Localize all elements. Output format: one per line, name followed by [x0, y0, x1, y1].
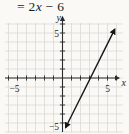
y-axis-label: y [56, 12, 62, 23]
y-tick-label: 5 [54, 29, 59, 39]
x-tick-label: −5 [9, 84, 19, 94]
y-tick-label: −5 [49, 122, 59, 132]
x-axis-label: x [121, 77, 127, 88]
textbook-graph-panel: = 2x − 6 −555−5xy [0, 0, 129, 134]
graph-svg: −555−5xy [0, 0, 129, 134]
x-tick-label: 5 [105, 84, 110, 94]
